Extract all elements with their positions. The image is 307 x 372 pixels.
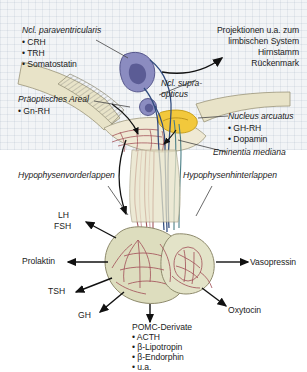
- leader-paraventricular: [96, 40, 128, 58]
- label-hormone-fsh: FSH: [54, 221, 71, 231]
- portal-flow-arrow: [119, 140, 126, 214]
- label-anterior-lobe: Hypophysenvorderlappen: [18, 170, 115, 180]
- label-arcuate-item-1: • Dopamin: [228, 134, 267, 144]
- label-hormone-prolaktin: Prolaktin: [22, 256, 55, 266]
- arrow-gh: [100, 292, 124, 312]
- label-pomc-item-2: • β-Endorphin: [132, 352, 184, 362]
- label-paraventricular-item-0: • CRH: [22, 37, 46, 47]
- label-supraoptic-line-1: Ncl. supra-: [161, 78, 202, 88]
- label-hormone-vasopressin: Vasopressin: [250, 257, 296, 267]
- label-hormone-lh: LH: [58, 210, 69, 220]
- label-posterior-lobe: Hypophysenhinterlappen: [183, 170, 277, 180]
- supraoptic-nucleus-core: [145, 104, 153, 112]
- label-pomc-title: POMC-Derivate: [132, 322, 192, 332]
- leader-posterior-lobe: [196, 186, 212, 216]
- label-paraventricular-title: Ncl. paraventricularis: [22, 25, 101, 35]
- label-projections-line-3: Rückenmark: [169, 58, 299, 68]
- label-pomc-item-3: • u.a.: [132, 362, 151, 372]
- label-paraventricular-item-1: • TRH: [22, 48, 45, 58]
- arrow-tsh: [76, 278, 112, 292]
- label-pomc-item-1: • β-Lipotropin: [132, 342, 182, 352]
- label-projections-line-2: Hirnstamm: [169, 47, 299, 57]
- label-supraoptic-line-2: opticus: [161, 89, 188, 99]
- label-preoptic-item-0: • Gn-RH: [18, 106, 50, 116]
- arrow-oxytocin: [202, 288, 226, 306]
- label-eminentia-mediana: Eminentia mediana: [213, 147, 286, 157]
- label-projections-line-1: limbischen System: [169, 36, 299, 46]
- label-hormone-tsh: TSH: [48, 286, 65, 296]
- label-preoptic-title: Präoptisches Areal: [18, 94, 89, 104]
- infundibular-stalk: [130, 150, 180, 222]
- posterior-pituitary-lobe: [161, 234, 214, 294]
- arrow-lh-fsh: [86, 222, 116, 238]
- label-arcuate-item-0: • GH-RH: [228, 123, 261, 133]
- label-paraventricular-item-2: • Somatostatin: [22, 59, 77, 69]
- label-pomc-item-0: • ACTH: [132, 332, 160, 342]
- label-hormone-gh: GH: [78, 310, 91, 320]
- label-arcuate-title: Nucleus arcuatus: [228, 111, 294, 121]
- label-projections-line-0: Projektionen u.a. zum: [169, 25, 299, 35]
- label-hormone-oxytocin: Oxytocin: [228, 305, 261, 315]
